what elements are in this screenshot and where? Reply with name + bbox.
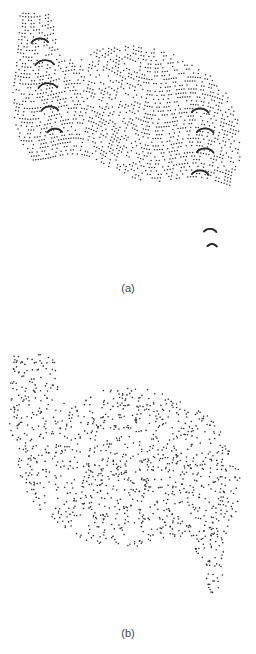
panel-a-caption: (a): [0, 282, 256, 294]
panel-b: [0, 320, 256, 616]
panel-b-caption: (b): [0, 627, 256, 639]
scatter-plot-b: [0, 320, 256, 616]
scatter-plot-a: [0, 0, 256, 270]
panel-a: [0, 0, 256, 270]
